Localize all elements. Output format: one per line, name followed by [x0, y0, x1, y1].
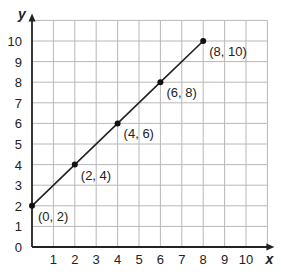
- point-label: (8, 10): [209, 44, 247, 59]
- x-tick-label: 8: [200, 252, 207, 267]
- y-tick-label: 5: [15, 137, 22, 152]
- x-tick-label: 6: [157, 252, 164, 267]
- y-tick-label: 1: [15, 219, 22, 234]
- y-axis-label: y: [17, 6, 27, 22]
- x-tick-label: 7: [178, 252, 185, 267]
- data-point: [72, 162, 78, 168]
- x-tick-label: 3: [93, 252, 100, 267]
- coordinate-plane: 12345678910012345678910 (0, 2)(2, 4)(4, …: [0, 0, 281, 277]
- data-point: [29, 203, 35, 209]
- x-axis-label: x: [264, 251, 274, 267]
- point-label: (6, 8): [166, 85, 196, 100]
- x-tick-label: 10: [239, 252, 253, 267]
- tick-labels: 12345678910012345678910: [8, 34, 254, 267]
- y-tick-label: 8: [15, 75, 22, 90]
- point-label: (2, 4): [81, 168, 111, 183]
- y-tick-label: 3: [15, 178, 22, 193]
- y-tick-label: 7: [15, 96, 22, 111]
- y-tick-label: 6: [15, 116, 22, 131]
- x-axis-arrow-icon: [266, 244, 274, 251]
- y-axis-arrow-icon: [29, 13, 36, 21]
- data-points: (0, 2)(2, 4)(4, 6)(6, 8)(8, 10): [29, 38, 247, 224]
- point-label: (4, 6): [124, 126, 154, 141]
- y-tick-label: 10: [8, 34, 22, 49]
- y-tick-label: 0: [15, 240, 22, 255]
- data-point: [200, 38, 206, 44]
- data-point: [157, 79, 163, 85]
- x-tick-label: 1: [50, 252, 57, 267]
- x-tick-label: 5: [135, 252, 142, 267]
- y-tick-label: 4: [15, 158, 22, 173]
- x-tick-label: 9: [221, 252, 228, 267]
- point-label: (0, 2): [38, 209, 68, 224]
- data-point: [115, 120, 121, 126]
- x-tick-label: 2: [71, 252, 78, 267]
- y-tick-label: 2: [15, 199, 22, 214]
- y-tick-label: 9: [15, 55, 22, 70]
- x-tick-label: 4: [114, 252, 121, 267]
